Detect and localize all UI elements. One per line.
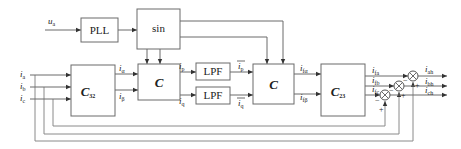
block-c2: C — [253, 64, 294, 104]
block-c32: C32 — [71, 65, 115, 116]
summing-junction-a — [408, 71, 418, 81]
label-iq-bar: iq — [238, 98, 244, 109]
label-iah: iah — [425, 64, 433, 75]
lpf-to-c-lines — [230, 72, 253, 95]
sign-plus-a: + — [415, 81, 420, 90]
block-c23: C23 — [321, 64, 365, 116]
block-lpf-1: LPF — [196, 63, 230, 80]
block-lpf-2: LPF — [196, 87, 230, 104]
block-lpf-2-label: LPF — [204, 89, 223, 101]
label-ibeta: iβ — [119, 91, 125, 102]
block-c32-sub: 32 — [89, 93, 95, 99]
label-ia: ia — [20, 69, 26, 80]
label-ialpha: iα — [119, 63, 126, 74]
block-pll-label: PLL — [90, 24, 110, 36]
block-c32-label: C — [81, 84, 90, 99]
block-c1: C — [138, 64, 180, 100]
c-to-lpf-lines — [180, 72, 196, 95]
label-ifalpha: ifα — [300, 63, 309, 74]
sign-plus-c: + — [379, 105, 384, 114]
block-c23-label: C — [331, 84, 340, 99]
block-pll: PLL — [81, 18, 118, 42]
c-to-c23-lines — [294, 74, 321, 94]
label-iq: iq — [179, 96, 185, 107]
block-c1-label: C — [155, 75, 164, 90]
sign-minus-c: − — [375, 96, 380, 105]
label-ua: ua — [48, 16, 56, 27]
block-sin: sin — [137, 9, 180, 49]
label-ip-bar: ip — [238, 61, 244, 72]
sign-minus-a: − — [403, 76, 408, 85]
block-sin-label: sin — [152, 22, 165, 34]
block-diagram: PLL sin C32 C LPF LPF C C23 — [0, 0, 461, 149]
block-c2-label: C — [269, 77, 278, 92]
label-ip: ip — [179, 61, 185, 72]
label-ic: ic — [20, 93, 26, 104]
label-ib: ib — [20, 81, 26, 92]
sign-plus-b: + — [401, 91, 406, 100]
c32-to-c-lines — [115, 74, 138, 90]
block-c23-sub: 23 — [339, 93, 345, 99]
sign-minus-b: − — [389, 86, 394, 95]
block-lpf-1-label: LPF — [204, 65, 223, 77]
